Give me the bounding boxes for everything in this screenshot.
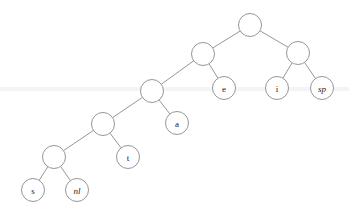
tree-node-circle[interactable] [239, 14, 262, 37]
tree-node-root[interactable] [239, 14, 262, 37]
tree-node-t[interactable]: t [117, 146, 140, 169]
edge-layer [39, 31, 315, 181]
tree-node-label: nl [73, 186, 81, 196]
tree-node-sp[interactable]: sp [311, 77, 334, 100]
tree-edge [113, 97, 143, 117]
tree-edge [64, 130, 94, 150]
tree-node-circle[interactable] [141, 80, 164, 103]
tree-node-circle[interactable] [92, 113, 115, 136]
tree-edge [305, 62, 316, 78]
tree-node-label: a [175, 119, 179, 129]
tree-edge [39, 167, 48, 181]
tree-node-label: e [222, 84, 226, 94]
binary-tree-diagram: ispeatsnl [0, 0, 349, 216]
tree-edge [260, 31, 288, 47]
tree-node-label: sp [318, 84, 327, 94]
tree-node-n4[interactable] [92, 113, 115, 136]
tree-node-n3[interactable] [141, 80, 164, 103]
tree-node-circle[interactable] [287, 42, 310, 65]
tree-node-circle[interactable] [43, 146, 66, 169]
tree-edge [61, 166, 71, 180]
tree-canvas: ispeatsnl [0, 0, 349, 216]
tree-edge [283, 63, 292, 78]
tree-edge [161, 61, 193, 85]
tree-node-label: s [31, 186, 35, 196]
tree-edge [159, 100, 170, 114]
tree-node-i[interactable]: i [266, 77, 289, 100]
tree-node-nl[interactable]: nl [66, 179, 89, 202]
tree-node-circle[interactable] [192, 43, 215, 66]
tree-node-e[interactable]: e [213, 77, 236, 100]
tree-edge [213, 31, 240, 48]
tree-node-n2[interactable] [287, 42, 310, 65]
tree-node-n1[interactable] [192, 43, 215, 66]
tree-node-s[interactable]: s [22, 179, 45, 202]
tree-node-a[interactable]: a [166, 112, 189, 135]
node-layer: ispeatsnl [22, 14, 334, 202]
tree-edge [209, 64, 218, 78]
tree-node-n5[interactable] [43, 146, 66, 169]
tree-edge [110, 133, 121, 148]
